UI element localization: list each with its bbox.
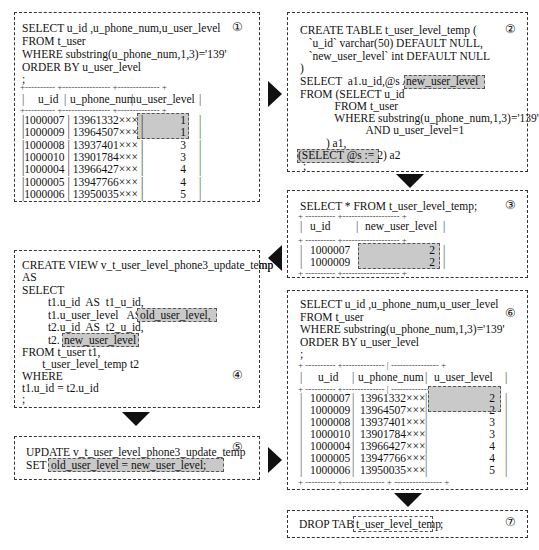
sql-line: (SELECT @s := 2) a2 [298,149,400,162]
step-7-number: ⑦ [505,515,516,530]
table-row: |1000004 | 13966427××× | [22,163,143,176]
sql-line: AND u_user_level=1 [300,124,464,137]
table-pipe: | [199,188,201,201]
sql-line: ; [300,160,306,173]
arrow-down-icon [394,493,422,507]
sql-line: CREATE TABLE t_user_level_temp ( [300,24,477,37]
table-pipe: | [505,371,507,384]
table-header: u_user_level [434,371,493,384]
step-1-number: ① [232,20,243,35]
sql-line: ; [22,393,25,406]
table-separator: +---------- +---------------- +---------… [20,82,167,92]
table-pipe: | [425,371,427,384]
sql-line: SET [26,459,46,472]
step-4-number: ④ [232,368,243,383]
sql-line: ) [300,62,304,75]
table-cell: 5 [150,188,186,201]
arrow-down-icon [122,412,150,426]
arrow-right-icon [268,81,282,107]
table-header: new_user_level [365,220,437,233]
table-pipe: | [425,464,427,477]
highlight-text: new_user_level [406,75,478,88]
table-cell: 1 [150,126,186,139]
table-pipe: | [300,371,302,384]
table-cell: 4 [150,163,186,176]
table-header: u_id [318,371,338,384]
sql-line: SELECT u_id ,u_phone_num,u_user_level [300,298,498,311]
table-cell: 1000006 [310,464,350,477]
table-separator: + ---------- +-------------- + ---------… [298,477,449,487]
table-pipe: | [199,163,201,176]
table-pipe: | [352,371,354,384]
sql-line: SELECT u_id ,u_phone_num,u_user_level [22,22,220,35]
table-cell: 13950035××× [360,464,425,477]
table-pipe: | [443,256,445,269]
table-pipe: | [199,93,201,106]
table-cell: 5 [455,464,495,477]
arrow-down-icon [396,174,424,188]
sql-line: t1.u_id AS t1_u_id, [22,296,144,309]
table-pipe: | [300,220,302,233]
sql-line: ORDER BY u_user_level [300,336,419,349]
step-3-number: ③ [505,198,516,213]
sql-line: ; [440,518,443,531]
table-pipe: | [300,464,302,477]
arrow-right-icon [268,447,282,473]
sql-line: ORDER BY u_user_level [22,61,141,74]
table-pipe: | [505,464,507,477]
highlight-text: old_user_level, [140,309,211,322]
sql-line: AS [22,271,37,284]
sql-line: SELECT a1.u_id,@s AS [300,75,417,88]
sql-line: `new_user_level` int DEFAULT NULL [300,50,490,63]
step-2-number: ② [505,22,516,37]
table-pipe: | [352,464,354,477]
sql-line: `u_id` varchar(50) DEFAULT NULL, [300,37,483,50]
table-pipe: | [443,220,445,233]
table-name-text: t_user_level_temp [356,518,441,531]
sql-line: t1.u_id = t2.u_id [22,382,99,395]
sql-line: WHERE substring(u_phone_num,1,3)='139' [300,323,505,336]
table-row: |1000006 | 13950035××× | [22,188,143,201]
table-separator: + ---------- +-------------- | ---------… [298,360,446,370]
table-separator: + ---------- +------------------- + [298,268,407,278]
sql-line: FROM t_user [22,35,86,48]
table-row: |1000009 | 13964507××× | [22,126,143,139]
table-pipe: | [356,220,358,233]
table-header: u_id [310,220,330,233]
sql-line: CREATE VIEW v_t_user_level_phone3_update… [22,259,273,272]
table-pipe: | [199,126,201,139]
sql-line: WHERE substring(u_phone_num,1,3)='139' [22,48,227,61]
table-header: u_phone_num [358,371,424,384]
step-6-number: ⑥ [505,306,516,321]
highlight-text: old_user_level = new_user_level; [51,459,206,472]
